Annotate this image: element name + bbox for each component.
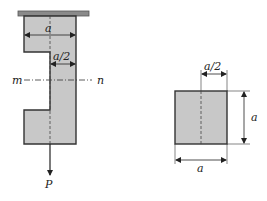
- label-cross-a-right: a: [251, 111, 258, 124]
- ceiling-support: [18, 11, 89, 16]
- label-cross-a-bottom: a: [197, 162, 204, 175]
- label-cross-a-half: a/2: [204, 60, 221, 73]
- label-m: m: [12, 74, 22, 87]
- label-a-half: a/2: [53, 50, 70, 63]
- label-P: P: [44, 178, 53, 191]
- diagram-canvas: a a/2 m n P a/2 a a: [0, 0, 267, 201]
- label-a-top: a: [45, 22, 52, 35]
- label-n: n: [97, 74, 104, 87]
